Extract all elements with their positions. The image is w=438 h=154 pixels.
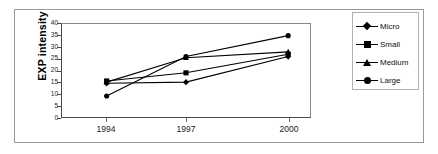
legend-item-medium[interactable]: Medium: [356, 53, 415, 71]
x-tick-mark: [186, 118, 187, 122]
plot-series-svg: [62, 24, 310, 117]
x-tick-label: 1994: [86, 124, 126, 134]
square-marker-icon: [364, 41, 371, 48]
chart-figure: EXP intensity 0510152025303540 199419972…: [0, 0, 438, 154]
y-tick-mark: [57, 59, 61, 60]
x-tick-label: 1997: [166, 124, 206, 134]
series-line: [107, 36, 289, 96]
y-tick-mark: [57, 47, 61, 48]
plot-area: [61, 23, 311, 118]
y-tick-mark: [57, 71, 61, 72]
legend-swatch: [356, 56, 378, 68]
legend-swatch: [356, 74, 378, 86]
x-tick-mark: [106, 118, 107, 122]
x-tick-label: 2000: [269, 124, 309, 134]
legend-item-small[interactable]: Small: [356, 35, 415, 53]
triangle-marker-icon: [363, 59, 371, 66]
y-tick-mark: [57, 94, 61, 95]
legend-item-large[interactable]: Large: [356, 71, 415, 89]
series-line: [107, 52, 289, 82]
y-tick-mark: [57, 35, 61, 36]
circle-marker-icon: [104, 94, 109, 99]
y-axis-tick-labels: 0510152025303540: [38, 0, 58, 154]
legend-label: Large: [380, 76, 400, 85]
legend-swatch: [356, 38, 378, 50]
diamond-marker-icon: [183, 79, 189, 85]
circle-marker-icon: [364, 77, 371, 84]
x-tick-mark: [289, 118, 290, 122]
y-tick-mark: [57, 82, 61, 83]
circle-marker-icon: [286, 33, 291, 38]
y-tick-mark: [57, 106, 61, 107]
y-tick-mark: [57, 118, 61, 119]
diamond-marker-icon: [363, 22, 371, 30]
legend-label: Small: [380, 40, 400, 49]
legend-label: Micro: [380, 22, 400, 31]
y-tick-mark: [57, 23, 61, 24]
series-large: [104, 33, 291, 99]
series-line: [107, 57, 289, 84]
series-line: [107, 54, 289, 81]
legend-label: Medium: [380, 58, 408, 67]
chart-legend: MicroSmallMediumLarge: [352, 12, 419, 90]
legend-item-micro[interactable]: Micro: [356, 17, 415, 35]
square-marker-icon: [183, 70, 188, 75]
legend-swatch: [356, 20, 378, 32]
circle-marker-icon: [183, 54, 188, 59]
